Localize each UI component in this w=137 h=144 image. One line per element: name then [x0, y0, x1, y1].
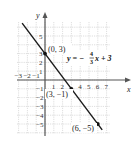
line-graph: x y −3−2−1124567 5321−1−2−3−4−5 (0, 3) (… [0, 0, 137, 144]
x-tick-label: 7 [105, 83, 109, 91]
point-0-3 [43, 52, 47, 56]
equation-label: y = − 4 3 x + 3 [66, 50, 114, 66]
point-label-0-3: (0, 3) [48, 45, 66, 54]
y-tick-label: −3 [36, 103, 44, 111]
x-tick-label: 6 [96, 83, 100, 91]
x-tick-label: −3 [15, 72, 23, 80]
y-tick-label: 2 [39, 59, 43, 67]
y-tick-label: −2 [36, 94, 44, 102]
y-tick-label: 5 [39, 33, 43, 41]
x-axis-label: x [126, 85, 131, 94]
x-tick-label: 5 [87, 83, 91, 91]
y-tick-label: 1 [39, 68, 43, 76]
y-axis-arrow-icon [43, 12, 48, 18]
y-axis-label: y [35, 11, 40, 20]
y-tick-label: −1 [36, 85, 44, 93]
svg-text:3: 3 [90, 59, 93, 65]
y-tick-label: −4 [36, 112, 44, 120]
svg-text:4: 4 [90, 51, 93, 57]
x-tick-label: −2 [23, 72, 31, 80]
x-axis-arrow-icon [125, 78, 131, 83]
x-tick-label: 4 [78, 83, 82, 91]
svg-text:y = −: y = − [66, 54, 84, 63]
y-tick-label: −5 [36, 121, 44, 129]
svg-text:x + 3: x + 3 [94, 54, 112, 63]
point-label-6-neg5: (6, −5) [72, 124, 94, 133]
point-label-3-neg1: (3, −1) [46, 90, 68, 99]
